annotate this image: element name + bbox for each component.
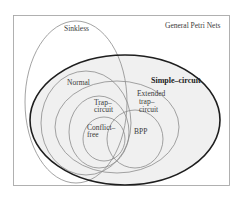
simple-circuit-label: Simple–circuit	[151, 76, 201, 85]
conflict-free-label-line2: free	[87, 130, 99, 139]
petri-net-class-diagram: General Petri Nets Sinkless Simple–circu…	[0, 0, 244, 198]
normal-label: Normal	[67, 78, 90, 87]
general-petri-nets-label: General Petri Nets	[165, 21, 220, 30]
bpp-label: BPP	[134, 127, 147, 136]
sinkless-label: Sinkless	[64, 24, 89, 33]
extended-trap-circuit-label-line3: circuit	[139, 105, 159, 114]
trap-circuit-label-line2: circuit	[94, 105, 114, 114]
